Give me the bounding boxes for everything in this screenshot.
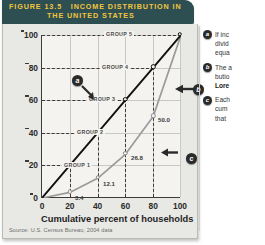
data-label-50-0: 50.0 [158, 116, 170, 123]
note-b-line2: butio [215, 73, 229, 80]
note-b-marker: b [203, 63, 212, 72]
y-tick-60: 60 [29, 95, 38, 105]
panel-divider [199, 26, 200, 231]
annotation-group-1: GROUP 1 [62, 162, 92, 168]
note-c-line3: that [215, 115, 226, 122]
figure-title-line1: INCOME DISTRIBUTION IN [71, 2, 182, 11]
note-c-marker: c [203, 96, 212, 105]
x-tick-100: 100 [173, 201, 187, 211]
y-tick-40: 40 [29, 128, 38, 138]
note-b-line1: The a [215, 64, 232, 71]
figure-number: FIGURE 13.5 [9, 2, 62, 11]
annotation-group-2: GROUP 2 [75, 129, 105, 135]
point-equality-100 [178, 32, 182, 36]
figure-container: FIGURE 13.5 INCOME DISTRIBUTION IN THE U… [0, 0, 265, 245]
callout-a-arrow-icon [80, 84, 102, 104]
figure-header: FIGURE 13.5 INCOME DISTRIBUTION IN THE U… [2, 0, 194, 24]
plot-wrapper: 3.4 12.1 26.8 50.0 GROUP 1 GROUP 2 GROUP… [3, 24, 199, 239]
note-b-line3: Lore [215, 82, 229, 89]
note-c-line2: cum [215, 105, 227, 112]
note-a-marker: a [203, 30, 212, 39]
note-c-line1: Each [215, 96, 230, 103]
note-c: c Each cum that [203, 95, 265, 123]
note-a: a If inc divid equa [203, 30, 265, 58]
callout-c-arrow-icon [161, 148, 179, 157]
x-tick-0: 0 [40, 201, 45, 211]
callout-c-marker: c [186, 153, 197, 164]
note-a-line3: equa [215, 49, 230, 56]
chart-panel: Cumulative percent of income [2, 24, 198, 239]
source-note: Source: U.S. Census Bureau, 2004 data [9, 227, 113, 233]
annotation-group-4: GROUP 4 [100, 64, 130, 70]
plot-area: 3.4 12.1 26.8 50.0 GROUP 1 GROUP 2 GROUP… [41, 35, 180, 198]
data-label-26-8: 26.8 [131, 154, 143, 161]
y-tick-20: 20 [29, 160, 38, 170]
x-tick-80: 80 [149, 201, 158, 211]
figure-title-line2: THE UNITED STATES [9, 11, 190, 20]
annotation-group-5: GROUP 5 [104, 31, 134, 37]
data-label-3-4: 3.4 [75, 193, 83, 200]
note-a-line2: divid [215, 40, 229, 47]
data-label-12-1: 12.1 [103, 180, 115, 187]
notes-column: a If inc divid equa b The a butio Lore c… [203, 30, 265, 128]
x-tick-20: 20 [65, 201, 74, 211]
x-tick-40: 40 [93, 201, 102, 211]
y-tick-80: 80 [29, 63, 38, 73]
y-tick-0: 0 [33, 193, 38, 203]
note-a-line1: If inc [215, 31, 229, 38]
x-axis-label: Cumulative percent of households [41, 214, 180, 224]
x-tick-60: 60 [121, 201, 130, 211]
callout-b-arrow-icon [175, 84, 195, 94]
note-b: b The a butio Lore [203, 63, 265, 91]
y-tick-100: 100 [24, 30, 38, 40]
